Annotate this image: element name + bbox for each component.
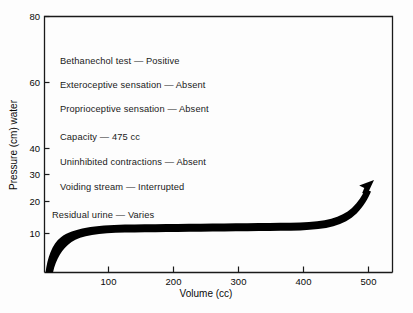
x-tick-label-300: 300 — [231, 276, 247, 287]
annotation-uninhibited-contractions: Uninhibited contractions — Absent — [60, 157, 206, 167]
y-tick-label-10: 10 — [29, 228, 40, 239]
y-tick-label-40: 40 — [29, 143, 40, 154]
annotation-list: Bethanechol test — Positive Exteroceptiv… — [52, 56, 209, 220]
y-tick-label-60: 60 — [29, 77, 40, 88]
annotation-voiding-stream: Voiding stream — Interrupted — [60, 182, 184, 192]
annotation-residual-urine: Residual urine — Varies — [52, 210, 155, 220]
x-tick-label-200: 200 — [166, 276, 182, 287]
x-axis-title: Volume (cc) — [180, 288, 233, 299]
cystometrogram-figure: 80 60 40 30 20 10 100 200 300 400 500 Vo… — [0, 0, 413, 313]
x-tick-label-500: 500 — [361, 276, 377, 287]
y-axis-title: Pressure (cm) water — [8, 99, 19, 190]
y-tick-label-80: 80 — [29, 11, 40, 22]
y-axis-tick-labels: 80 60 40 30 20 10 — [29, 11, 40, 239]
x-axis-tick-labels: 100 200 300 400 500 — [101, 276, 377, 287]
x-axis-ticks — [109, 267, 369, 273]
y-axis-ticks — [45, 17, 50, 234]
annotation-exteroceptive-sensation: Exteroceptive sensation — Absent — [60, 80, 206, 90]
x-tick-label-100: 100 — [101, 276, 117, 287]
chart-canvas: 80 60 40 30 20 10 100 200 300 400 500 Vo… — [0, 0, 413, 313]
curve-arrowhead-icon — [359, 180, 374, 195]
y-tick-label-30: 30 — [29, 169, 40, 180]
x-tick-label-400: 400 — [296, 276, 312, 287]
cystometrogram-curve — [46, 180, 375, 273]
annotation-capacity: Capacity — 475 cc — [60, 132, 140, 142]
y-tick-label-20: 20 — [29, 196, 40, 207]
curve-body — [46, 189, 372, 273]
annotation-proprioceptive-sensation: Proprioceptive sensation — Absent — [60, 104, 209, 114]
annotation-bethanechol-test: Bethanechol test — Positive — [60, 56, 180, 66]
